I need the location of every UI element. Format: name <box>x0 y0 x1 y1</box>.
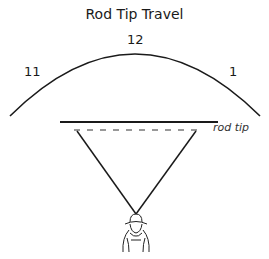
rod-left-line <box>77 131 136 214</box>
rod-tip-label: rod tip <box>213 121 249 134</box>
rod-right-line <box>136 131 196 214</box>
angler-figure-icon <box>123 214 149 252</box>
rod-tip-travel-diagram: Rod Tip Travel 11 12 1 rod tip <box>0 0 269 259</box>
rod-tip-arc <box>10 54 260 116</box>
